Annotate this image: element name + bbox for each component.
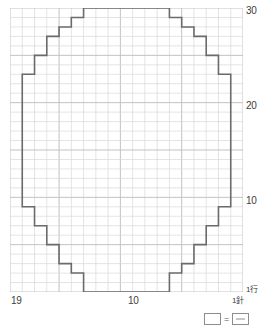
knitting-chart: 30 20 10 1行 19 10 1針 = (0, 0, 276, 333)
x-axis-label-10: 10 (128, 296, 139, 306)
y-axis-label-30: 30 (246, 6, 257, 16)
x-axis-label-1-stitch: 1針 (232, 296, 244, 306)
y-axis-label-20: 20 (246, 101, 257, 111)
legend-equals-sign: = (224, 315, 229, 324)
plain-square-icon (204, 313, 221, 325)
y-axis-label-10: 10 (246, 196, 257, 206)
chart-grid-area (10, 8, 243, 292)
chart-grid-svg (10, 8, 243, 292)
y-axis-label-1-row: 1行 (246, 285, 258, 295)
chart-legend: = (204, 313, 249, 325)
purl-dash-square-icon (232, 313, 249, 325)
x-axis-label-19: 19 (11, 296, 22, 306)
grid-lines (10, 8, 243, 292)
